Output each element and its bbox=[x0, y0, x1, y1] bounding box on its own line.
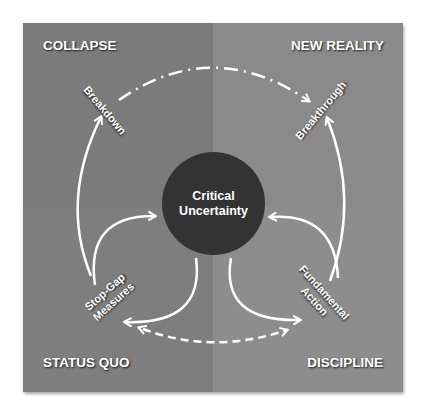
quadrant-label-discipline: DISCIPLINE bbox=[307, 355, 383, 370]
quadrant-label-new-reality: NEW REALITY bbox=[291, 38, 384, 53]
quadrant-label-collapse: COLLAPSE bbox=[43, 38, 117, 53]
quadrant-label-status-quo: STATUS QUO bbox=[43, 355, 130, 370]
center-label-line2: Uncertainty bbox=[179, 204, 248, 219]
critical-uncertainty-circle: Critical Uncertainty bbox=[162, 152, 265, 255]
center-label-line1: Critical bbox=[192, 189, 234, 204]
